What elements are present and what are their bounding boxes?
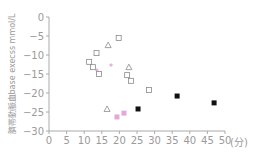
axes: 0−5−10−15−20−25−3005101520253035404550 — [23, 12, 231, 147]
y-tick-label: −5 — [29, 31, 44, 42]
y-tick-label: −10 — [23, 50, 44, 61]
data-point-black-square — [175, 94, 180, 99]
data-point-open-square — [129, 78, 134, 83]
y-tick-label: −20 — [23, 88, 44, 99]
data-point-open-square — [94, 51, 99, 56]
y-tick-label: −25 — [23, 107, 44, 118]
data-point-open-triangle — [126, 64, 132, 70]
scatter-chart: 臍帯動脈血base execss mmol/L 0−5−10−15−20−25−… — [0, 0, 258, 154]
data-point-pink-square — [114, 114, 119, 119]
data-point-pink-square — [121, 111, 126, 116]
x-tick-label: 45 — [201, 135, 214, 146]
data-point-open-square — [87, 59, 92, 64]
x-axis-label: (分) — [230, 137, 248, 148]
data-point-open-square — [116, 35, 121, 40]
y-axis-label: 臍帯動脈血base execss mmol/L — [7, 13, 17, 134]
x-tick-label: 35 — [166, 135, 179, 146]
y-tick-label: −30 — [23, 126, 44, 137]
data-point-open-square — [125, 73, 130, 78]
data-point-black-square — [136, 106, 141, 111]
x-tick-label: 5 — [63, 135, 69, 146]
data-point-open-square — [146, 87, 151, 92]
data-point-open-triangle — [104, 106, 110, 112]
data-points: ** — [87, 35, 217, 119]
data-point-black-square — [212, 100, 217, 105]
data-point-open-triangle — [105, 42, 111, 48]
data-point-pink-asterisk: * — [95, 67, 100, 77]
y-tick-label: −15 — [23, 69, 44, 80]
x-tick-label: 0 — [46, 135, 52, 146]
x-tick-label: 30 — [148, 135, 161, 146]
y-tick-label: 0 — [38, 12, 44, 23]
x-tick-label: 25 — [131, 135, 144, 146]
x-tick-label: 20 — [113, 135, 126, 146]
x-tick-label: 10 — [78, 135, 91, 146]
x-tick-label: 40 — [183, 135, 196, 146]
data-point-pink-asterisk: * — [109, 62, 114, 72]
x-tick-label: 15 — [95, 135, 108, 146]
